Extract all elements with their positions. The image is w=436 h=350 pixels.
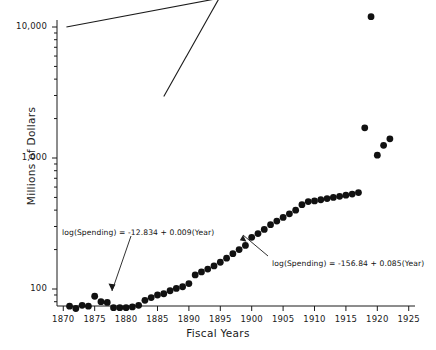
data-point (192, 272, 199, 279)
data-point (242, 242, 249, 249)
data-point (142, 297, 149, 304)
data-point (129, 304, 136, 311)
data-point (368, 13, 375, 20)
y-axis-tick-label: 1,000 (0, 152, 47, 162)
data-point (361, 124, 368, 131)
data-point (223, 255, 230, 262)
data-point (98, 298, 105, 305)
data-point (72, 305, 79, 312)
x-axis-title: Fiscal Years (0, 327, 436, 339)
data-point (204, 266, 211, 273)
data-point (349, 191, 356, 198)
data-point (110, 304, 117, 311)
data-point (386, 135, 393, 142)
data-point (374, 152, 381, 159)
data-point (85, 303, 92, 310)
chart-root: Millions of Dollars Fiscal Years 1001,00… (0, 0, 436, 350)
annotation-arrowhead (109, 284, 116, 292)
early-fit-annotation: log(Spending) = -12.834 + 0.009(Year) (62, 228, 214, 237)
annotation-arrowhead (240, 235, 247, 242)
scatter-plot-canvas (0, 0, 436, 350)
data-point (179, 283, 186, 290)
regression-line-late-period-fit (164, 0, 384, 96)
data-point (148, 294, 155, 301)
data-point (160, 290, 167, 297)
data-point (336, 193, 343, 200)
data-point (317, 196, 324, 203)
data-point (299, 201, 306, 208)
data-point (273, 218, 280, 225)
data-point (211, 263, 218, 270)
data-point (261, 226, 268, 233)
regression-line-early-period-fit (66, 0, 214, 27)
data-point (248, 234, 255, 241)
data-point (311, 198, 318, 205)
data-point (255, 230, 262, 237)
data-point (167, 287, 174, 294)
data-point (330, 194, 337, 201)
data-point (91, 293, 98, 300)
data-point (123, 304, 130, 311)
data-point (79, 302, 86, 309)
data-point (380, 142, 387, 149)
x-axis-tick-label: 1925 (386, 314, 432, 324)
data-point (280, 214, 287, 221)
data-point (104, 299, 111, 306)
late-fit-annotation: log(Spending) = -156.84 + 0.085(Year) (272, 259, 424, 268)
data-point (66, 303, 73, 310)
y-axis-tick-label: 100 (0, 283, 47, 293)
data-point (236, 246, 243, 253)
annotation-leader-line (112, 236, 131, 291)
data-point (185, 280, 192, 287)
data-point (305, 198, 312, 205)
data-point (154, 292, 161, 299)
data-point (135, 302, 142, 309)
data-point (267, 221, 274, 228)
data-point (355, 189, 362, 196)
data-point (217, 259, 224, 266)
data-point (116, 304, 123, 311)
data-point (292, 207, 299, 214)
data-point (198, 269, 205, 276)
data-point (324, 195, 331, 202)
data-point (343, 192, 350, 199)
data-point (286, 210, 293, 217)
data-point (173, 285, 180, 292)
data-point (229, 250, 236, 257)
y-axis-tick-label: 10,000 (0, 21, 47, 31)
